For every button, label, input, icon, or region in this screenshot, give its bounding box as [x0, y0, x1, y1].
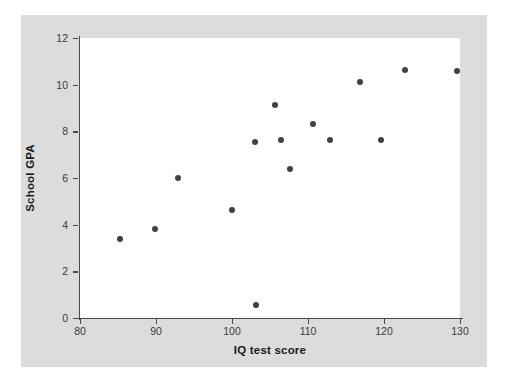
x-axis-title: IQ test score [80, 344, 460, 356]
data-point [310, 121, 316, 127]
x-tick-mark [460, 319, 461, 324]
data-point [229, 207, 235, 213]
x-tick-mark [308, 319, 309, 324]
data-point [327, 137, 333, 143]
scatter-plot-figure: 8090100110120130 024681012 IQ test score… [0, 0, 507, 383]
x-tick-mark [156, 319, 157, 324]
data-point [357, 79, 363, 85]
data-point [278, 137, 284, 143]
y-tick-label: 2 [62, 265, 68, 277]
x-tick-mark [80, 319, 81, 324]
data-point [378, 137, 384, 143]
x-tick-label: 80 [74, 325, 86, 337]
data-point [175, 175, 181, 181]
x-tick-label: 110 [300, 325, 317, 337]
y-tick-label: 4 [62, 219, 68, 231]
y-tick-mark [73, 318, 78, 319]
plot-panel [80, 38, 460, 318]
y-tick-mark [73, 225, 78, 226]
y-tick-label: 12 [56, 32, 68, 44]
data-point [454, 68, 460, 74]
y-tick-label: 0 [62, 312, 68, 324]
y-tick-mark [73, 85, 78, 86]
data-point [287, 166, 293, 172]
y-axis-title: School GPA [24, 144, 36, 212]
x-tick-label: 100 [223, 325, 241, 337]
x-tick-label: 120 [375, 325, 393, 337]
data-point [402, 67, 408, 73]
x-tick-label: 130 [451, 325, 469, 337]
y-tick-mark [73, 271, 78, 272]
y-tick-mark [73, 178, 78, 179]
data-point [152, 226, 158, 232]
y-tick-label: 8 [62, 125, 68, 137]
data-point [252, 139, 258, 145]
y-tick-label: 6 [62, 172, 68, 184]
y-tick-mark [73, 38, 78, 39]
y-tick-label: 10 [56, 79, 68, 91]
y-axis-line [79, 36, 80, 320]
x-tick-mark [384, 319, 385, 324]
data-point [272, 102, 278, 108]
x-axis-line [78, 318, 463, 319]
data-point [253, 302, 259, 308]
y-tick-mark [73, 131, 78, 132]
x-tick-label: 90 [150, 325, 162, 337]
data-point [117, 236, 123, 242]
x-tick-mark [232, 319, 233, 324]
